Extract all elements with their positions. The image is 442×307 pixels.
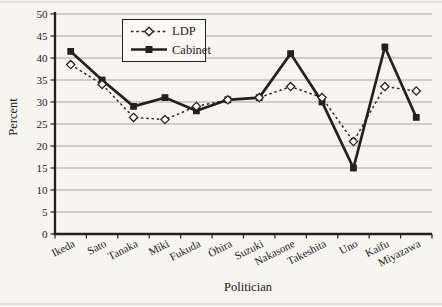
cabinet-marker — [287, 50, 294, 57]
y-tick-label: 25 — [37, 118, 49, 130]
x-tick-label: Ōhira — [206, 237, 234, 259]
scanned-chart-page: 05101520253035404550IkedaSatoTanakaMikiF… — [0, 0, 442, 307]
ldp-marker — [349, 138, 357, 146]
legend-item-cabinet: Cabinet — [130, 42, 205, 57]
y-tick-label: 15 — [37, 162, 49, 174]
y-tick-label: 40 — [37, 52, 49, 64]
cabinet-series-line — [71, 47, 417, 168]
legend-label-ldp: LDP — [172, 25, 196, 38]
legend: LDP Cabinet — [122, 19, 206, 62]
cabinet-legend-swatch — [130, 43, 168, 56]
ldp-marker — [381, 83, 389, 91]
cabinet-marker — [130, 103, 137, 110]
cabinet-legend-square-icon — [146, 46, 153, 53]
y-tick-label: 30 — [37, 96, 49, 108]
ldp-marker — [67, 61, 75, 69]
ldp-marker — [161, 116, 169, 124]
x-tick-label: Tanaka — [106, 237, 140, 262]
y-tick-label: 45 — [37, 30, 49, 42]
x-tick-label: Miki — [146, 237, 171, 257]
x-tick-label: Fukuda — [167, 237, 202, 263]
x-axis-title: Politician — [148, 280, 348, 295]
x-tick-label: Sato — [85, 237, 108, 257]
ldp-legend-diamond-icon — [145, 27, 154, 36]
ldp-marker — [412, 87, 420, 95]
cabinet-marker — [413, 114, 420, 121]
ldp-marker — [129, 113, 137, 121]
line-chart-plot: 05101520253035404550IkedaSatoTanakaMikiF… — [0, 0, 442, 307]
y-tick-label: 5 — [42, 206, 48, 218]
legend-item-ldp: LDP — [130, 24, 205, 39]
y-tick-label: 50 — [37, 8, 49, 20]
ldp-legend-swatch — [130, 25, 168, 38]
cabinet-marker — [350, 165, 357, 172]
y-tick-label: 0 — [42, 228, 48, 240]
legend-label-cabinet: Cabinet — [172, 44, 211, 57]
cabinet-marker — [67, 48, 74, 55]
cabinet-marker — [381, 44, 388, 51]
y-tick-label: 20 — [37, 140, 49, 152]
x-tick-label: Ikeda — [49, 237, 76, 259]
ldp-marker — [287, 83, 295, 91]
y-tick-label: 35 — [37, 74, 49, 86]
y-axis-title: Percent — [6, 87, 20, 147]
y-tick-label: 10 — [37, 184, 49, 196]
x-tick-label: Uno — [337, 237, 360, 257]
cabinet-marker — [162, 94, 169, 101]
